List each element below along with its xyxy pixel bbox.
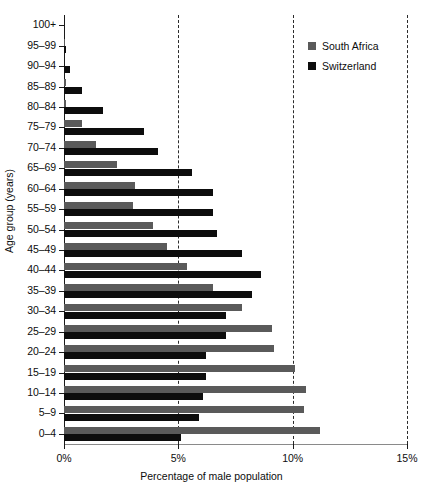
bar-south-africa — [64, 141, 96, 148]
x-axis-title: Percentage of male population — [0, 470, 423, 482]
bar-south-africa — [64, 161, 117, 168]
bar-row — [64, 76, 407, 97]
bar-south-africa — [64, 202, 133, 209]
bar-row — [64, 178, 407, 199]
y-axis-label-75-79: 75–79 — [4, 120, 56, 132]
bar-switzerland — [64, 250, 242, 257]
bar-row — [64, 362, 407, 383]
y-axis-label-25-29: 25–29 — [4, 325, 56, 337]
bar-row — [64, 219, 407, 240]
y-tick — [59, 311, 64, 312]
bar-switzerland — [64, 332, 226, 339]
bar-switzerland — [64, 291, 252, 298]
x-axis-label-10pct: 10% — [282, 452, 303, 464]
y-axis-label-90-94: 90–94 — [4, 59, 56, 71]
bar-row — [64, 424, 407, 445]
y-tick — [59, 107, 64, 108]
y-axis-label-20-24: 20–24 — [4, 345, 56, 357]
bar-row — [64, 321, 407, 342]
bar-south-africa — [64, 365, 295, 372]
legend-swatch-icon — [308, 42, 316, 50]
y-tick — [59, 209, 64, 210]
bar-switzerland — [64, 230, 217, 237]
bar-row — [64, 97, 407, 118]
y-tick — [59, 127, 64, 128]
y-tick — [59, 413, 64, 414]
legend-label: South Africa — [322, 40, 379, 52]
y-axis-label-10-14: 10–14 — [4, 386, 56, 398]
bar-switzerland — [64, 128, 144, 135]
bar-south-africa — [64, 120, 82, 127]
bar-switzerland — [64, 189, 213, 196]
x-tick — [407, 444, 408, 449]
bar-row — [64, 240, 407, 261]
gridline-15pct — [407, 15, 408, 444]
y-axis-title: Age group (years) — [3, 146, 15, 276]
y-axis-label-85-89: 85–89 — [4, 80, 56, 92]
y-tick — [59, 373, 64, 374]
bar-south-africa — [64, 79, 66, 86]
bar-south-africa — [64, 100, 66, 107]
population-pyramid-chart: 100+95–9990–9485–8980–8475–7970–7465–696… — [0, 0, 423, 490]
y-tick — [59, 148, 64, 149]
bar-switzerland — [64, 148, 158, 155]
bar-switzerland — [64, 87, 82, 94]
bar-row — [64, 281, 407, 302]
bar-south-africa — [64, 243, 167, 250]
x-axis-label-0pct: 0% — [56, 452, 71, 464]
bar-south-africa — [64, 222, 153, 229]
y-axis-label-15-19: 15–19 — [4, 366, 56, 378]
y-tick — [59, 87, 64, 88]
y-tick — [59, 352, 64, 353]
y-tick — [59, 434, 64, 435]
chart-legend: South AfricaSwitzerland — [308, 36, 379, 76]
bar-switzerland — [64, 393, 203, 400]
y-axis-label-80-84: 80–84 — [4, 100, 56, 112]
bar-row — [64, 158, 407, 179]
bar-row — [64, 403, 407, 424]
bar-switzerland — [64, 66, 70, 73]
x-axis-label-15pct: 15% — [396, 452, 417, 464]
plot-area — [64, 15, 407, 444]
x-tick — [64, 444, 65, 449]
x-tick — [293, 444, 294, 449]
bar-south-africa — [64, 39, 65, 46]
y-tick — [59, 168, 64, 169]
bar-switzerland — [64, 434, 181, 441]
bar-switzerland — [64, 312, 226, 319]
y-tick — [59, 332, 64, 333]
bar-south-africa — [64, 284, 213, 291]
bar-switzerland — [64, 209, 213, 216]
bar-switzerland — [64, 271, 261, 278]
y-tick — [59, 393, 64, 394]
y-axis-label-0-4: 0–4 — [4, 427, 56, 439]
bar-row — [64, 199, 407, 220]
y-tick — [59, 66, 64, 67]
y-tick — [59, 291, 64, 292]
legend-item: Switzerland — [308, 56, 379, 76]
y-axis-label-95-99: 95–99 — [4, 39, 56, 51]
x-axis-label-5pct: 5% — [171, 452, 186, 464]
y-tick — [59, 25, 64, 26]
y-tick — [59, 46, 64, 47]
bar-switzerland — [64, 373, 206, 380]
y-axis-label-5-9: 5–9 — [4, 406, 56, 418]
legend-item: South Africa — [308, 36, 379, 56]
bar-switzerland — [64, 414, 199, 421]
bar-south-africa — [64, 386, 306, 393]
bar-switzerland — [64, 352, 206, 359]
x-tick — [178, 444, 179, 449]
bar-row — [64, 138, 407, 159]
bar-switzerland — [64, 46, 66, 53]
bar-south-africa — [64, 345, 274, 352]
y-tick — [59, 189, 64, 190]
bar-switzerland — [64, 169, 192, 176]
bar-row — [64, 260, 407, 281]
y-tick — [59, 250, 64, 251]
y-tick — [59, 270, 64, 271]
y-axis-label-100+: 100+ — [4, 18, 56, 30]
bar-row — [64, 117, 407, 138]
bar-switzerland — [64, 107, 103, 114]
bar-south-africa — [64, 325, 272, 332]
bar-south-africa — [64, 406, 304, 413]
